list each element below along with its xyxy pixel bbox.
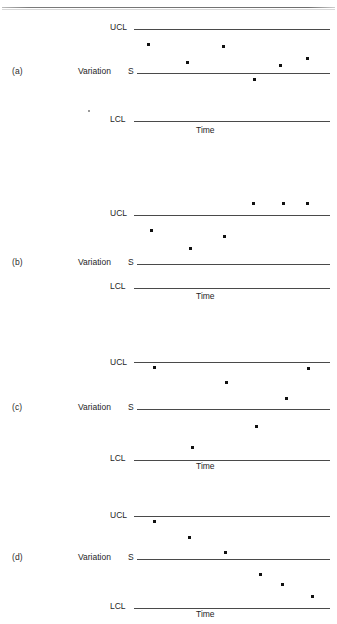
panel-b-variation-label: Variation [78,257,111,267]
panel-a-ucl-line [134,29,330,30]
data-point [147,43,150,46]
data-point [255,425,258,428]
data-point [306,202,309,205]
page-speckle-artifact [88,110,90,112]
panel-d-ucl-line [134,516,330,517]
data-point [279,64,282,67]
panel-a-time-label: Time [196,125,215,135]
data-point [307,367,310,370]
panel-a-center-label: S [128,66,134,76]
data-point [282,202,285,205]
panel-b-ucl-line [134,215,330,216]
panel-c-label: (c) [12,402,22,412]
panel-a-lcl-line [134,121,330,122]
panel-b-lcl-label: LCL [110,281,126,291]
panel-b-lcl-line [134,288,330,289]
panel-d-center-label: S [128,552,134,562]
data-point [311,595,314,598]
page-top-rule-secondary [2,9,335,10]
data-point [150,229,153,232]
panel-d-lcl-label: LCL [110,601,126,611]
panel-d-time-label: Time [196,609,215,619]
panel-c-center-line [137,409,330,410]
panel-b-center-label: S [128,257,134,267]
data-point [153,520,156,523]
panel-b-ucl-label: UCL [110,208,127,218]
data-point [306,57,309,60]
panel-a-ucl-label: UCL [110,22,127,32]
panel-c-lcl-label: LCL [110,453,126,463]
data-point [253,78,256,81]
panel-c-center-label: S [128,402,134,412]
data-point [223,235,226,238]
panel-a-lcl-label: LCL [110,114,126,124]
panel-a-label: (a) [12,66,23,76]
data-point [186,61,189,64]
panel-c-ucl-label: UCL [110,357,127,367]
data-point [259,573,262,576]
panel-d-ucl-label: UCL [110,510,127,520]
data-point [189,247,192,250]
panel-d-center-line [137,559,330,560]
panel-c-lcl-line [134,460,330,461]
data-point [191,446,194,449]
panel-d-label: (d) [12,552,23,562]
panel-d-lcl-line [134,608,330,609]
data-point [224,551,227,554]
data-point [153,366,156,369]
data-point [188,536,191,539]
data-point [222,45,225,48]
data-point [252,202,255,205]
panel-b-label: (b) [12,257,23,267]
panel-b-time-label: Time [196,291,215,301]
panel-c-ucl-line [134,362,330,363]
panel-d-variation-label: Variation [78,552,111,562]
panel-c-variation-label: Variation [78,402,111,412]
data-point [225,381,228,384]
page-top-rule [2,7,335,8]
panel-c-time-label: Time [196,461,215,471]
data-point [281,583,284,586]
data-point [285,397,288,400]
panel-b-center-line [137,264,330,265]
panel-a-center-line [137,73,330,74]
panel-a-variation-label: Variation [78,66,111,76]
